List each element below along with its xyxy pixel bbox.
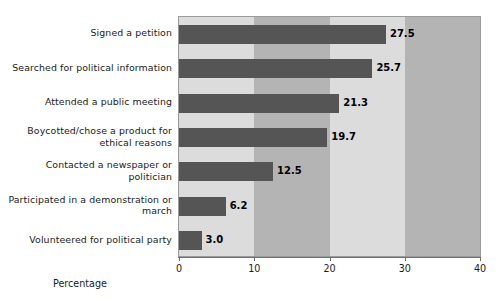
x-tick-label: 20 [323,263,335,274]
category-label: Participated in a demonstration or march [0,194,172,217]
category-label: Boycotted/chose a product for ethical re… [0,125,172,148]
category-label: Contacted a newspaper or politician [0,159,172,182]
value-label: 12.5 [277,165,302,176]
x-tick-label: 10 [248,263,260,274]
x-tick-mark [480,257,481,261]
value-label: 6.2 [230,200,248,211]
category-axis-labels: Signed a petitionSearched for political … [0,16,172,257]
value-label: 27.5 [390,28,415,39]
x-tick-mark [405,257,406,261]
data-value-labels: 27.525.721.319.712.56.23.0 [178,16,500,257]
category-label: Volunteered for political party [0,234,172,246]
value-label: 3.0 [206,234,224,245]
x-tick-label: 40 [474,263,486,274]
value-label: 21.3 [343,97,368,108]
category-label: Searched for political information [0,62,172,74]
category-label: Attended a public meeting [0,96,172,108]
category-label: Signed a petition [0,27,172,39]
x-tick-label: 0 [176,263,182,274]
value-label: 19.7 [331,131,356,142]
x-tick-mark [330,257,331,261]
x-tick-mark [254,257,255,261]
x-tick-mark [179,257,180,261]
x-axis-title: Percentage [0,278,500,289]
x-tick-label: 30 [399,263,411,274]
bar-chart: Signed a petitionSearched for political … [0,0,500,300]
value-label: 25.7 [376,62,401,73]
x-axis-title-text: Percentage [53,278,107,289]
